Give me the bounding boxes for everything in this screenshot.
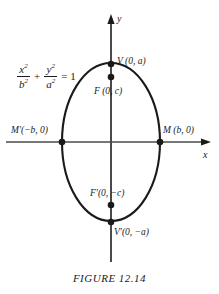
figure-container: y x V (0, a) F (0, c) M′(−b, 0) M (b, 0)…: [0, 0, 219, 294]
minor-left-label: M′(−b, 0): [11, 126, 48, 136]
equation-term-2-denominator: a2: [44, 78, 57, 90]
ellipse-equation: x2 b2 + y2 a2 = 1: [16, 63, 76, 89]
focus-bottom-marker: [108, 202, 115, 209]
minor-right-label: M (b, 0): [163, 126, 194, 136]
focus-top-label: F (0, c): [94, 87, 122, 97]
minor-left-marker: [59, 139, 66, 146]
ellipse-diagram: [0, 0, 219, 294]
minor-right-marker: [157, 139, 164, 146]
vertex-bottom-marker: [108, 219, 115, 226]
focus-bottom-label: F′(0, −c): [90, 189, 124, 199]
equation-right-hand-side: = 1: [61, 71, 75, 82]
vertex-top-label: V (0, a): [117, 57, 146, 67]
equation-term-1-den-exp: 2: [25, 77, 29, 85]
y-axis-arrowhead: [107, 14, 114, 24]
equation-term-1: x2 b2: [17, 63, 30, 89]
equation-term-2-den-exp: 2: [52, 77, 56, 85]
vertex-bottom-label: V′(0, −a): [114, 228, 149, 238]
x-axis-arrowhead: [201, 139, 211, 146]
y-axis-label: y: [117, 14, 121, 24]
equation-term-2-num-exp: 2: [51, 62, 55, 70]
equation-term-1-denominator: b2: [17, 78, 30, 90]
equation-operator: +: [34, 71, 40, 82]
vertex-top-marker: [108, 61, 115, 68]
equation-term-2-numerator: y2: [45, 63, 57, 75]
focus-top-marker: [108, 74, 115, 81]
equation-term-1-numerator: x2: [17, 63, 29, 75]
x-axis-label: x: [203, 150, 207, 160]
equation-term-1-num-exp: 2: [24, 62, 28, 70]
equation-term-2: y2 a2: [44, 63, 57, 89]
figure-caption: FIGURE 12.14: [0, 272, 219, 284]
